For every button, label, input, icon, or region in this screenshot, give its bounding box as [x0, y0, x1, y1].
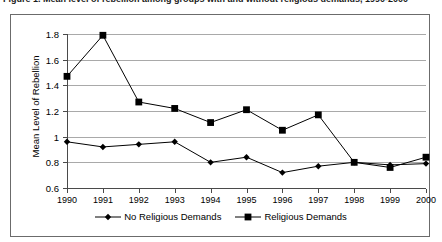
series-1: [64, 139, 429, 176]
data-point-square: [387, 164, 394, 171]
data-point-square: [100, 32, 107, 39]
x-tick-mark: [139, 189, 140, 193]
x-tick-mark: [211, 189, 212, 193]
x-tick-label: 1995: [236, 195, 256, 205]
data-point-square: [279, 127, 286, 134]
y-tick-label: 1: [54, 131, 65, 142]
series-line: [67, 35, 426, 167]
x-tick-label: 1996: [272, 195, 292, 205]
x-tick-mark: [247, 189, 248, 193]
data-point-square: [135, 99, 142, 106]
data-point-square: [171, 105, 178, 112]
x-tick-mark: [354, 189, 355, 193]
plot-area: 1.81.61.41.210.80.6 19901991199219931994…: [67, 34, 426, 188]
data-point-square: [243, 106, 250, 113]
x-tick-mark: [390, 189, 391, 193]
legend-label: No Religious Demands: [124, 211, 221, 222]
x-tick-label: 1990: [57, 195, 77, 205]
data-point-diamond: [172, 139, 178, 145]
data-point-diamond: [207, 159, 213, 165]
data-point-square: [315, 111, 322, 118]
x-tick-mark: [282, 189, 283, 193]
x-tick-label: 2000: [416, 195, 436, 205]
x-tick-label: 1991: [93, 195, 113, 205]
x-tick-mark: [426, 189, 427, 193]
x-tick-label: 1997: [308, 195, 328, 205]
legend-marker-square-icon: [235, 212, 261, 222]
data-point-square: [64, 73, 71, 80]
data-point-square: [351, 159, 358, 166]
chart-container: Mean Level of Rebellion 1.81.61.41.210.8…: [11, 15, 431, 238]
x-tick-label: 1999: [380, 195, 400, 205]
y-tick-label: 1.8: [46, 29, 65, 40]
data-point-diamond: [243, 154, 249, 160]
figure-caption-sliver: Figure 1. Mean level of rebellion among …: [0, 0, 442, 6]
data-point-diamond: [136, 141, 142, 147]
y-tick-label: 0.8: [46, 157, 65, 168]
legend-label: Religious Demands: [264, 211, 346, 222]
data-point-diamond: [279, 169, 285, 175]
figure-frame: Mean Level of Rebellion 1.81.61.41.210.8…: [10, 14, 430, 237]
x-tick-label: 1998: [344, 195, 364, 205]
x-tick-mark: [175, 189, 176, 193]
y-tick-label: 1.6: [46, 54, 65, 65]
data-point-square: [245, 213, 252, 220]
chart-legend: No Religious DemandsReligious Demands: [11, 211, 431, 222]
y-axis-title: Mean Level of Rebellion: [30, 32, 41, 182]
series-2: [64, 32, 430, 171]
figure-caption-text: Figure 1. Mean level of rebellion among …: [0, 0, 442, 4]
data-point-diamond: [105, 213, 111, 219]
y-tick-label: 1.4: [46, 80, 65, 91]
data-point-square: [423, 154, 430, 161]
legend-item-2[interactable]: Religious Demands: [235, 211, 346, 222]
x-tick-label: 1993: [165, 195, 185, 205]
x-tick-mark: [103, 189, 104, 193]
y-tick-label: 1.2: [46, 106, 65, 117]
data-point-square: [207, 119, 214, 126]
x-tick-label: 1994: [201, 195, 221, 205]
data-point-diamond: [100, 144, 106, 150]
legend-marker-diamond-icon: [95, 212, 121, 222]
data-point-diamond: [315, 163, 321, 169]
x-tick-mark: [318, 189, 319, 193]
y-tick-label: 0.6: [46, 183, 65, 194]
data-point-diamond: [423, 160, 429, 166]
series-plot: [67, 34, 426, 189]
legend-item-1[interactable]: No Religious Demands: [95, 211, 221, 222]
x-tick-label: 1992: [129, 195, 149, 205]
x-tick-mark: [67, 189, 68, 193]
